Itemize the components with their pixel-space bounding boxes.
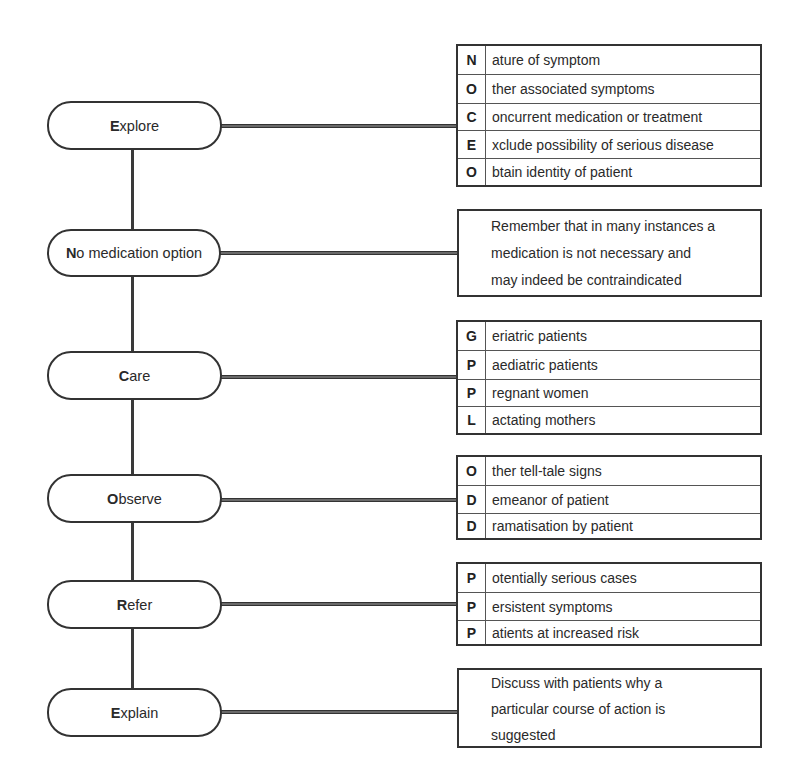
note-line: Remember that in many instances a — [491, 213, 752, 240]
table-row: P atients at increased risk — [458, 620, 760, 644]
acronym-letter: N — [458, 46, 486, 74]
step-label-rest: efer — [127, 597, 152, 613]
connector-observe — [221, 498, 457, 502]
step-initial: R — [117, 597, 127, 613]
acronym-letter: L — [458, 407, 486, 433]
acronym-text: eriatric patients — [486, 322, 760, 350]
table-row: D ramatisation by patient — [458, 513, 760, 538]
step-label-rest: bserve — [118, 491, 162, 507]
note-line: may indeed be contraindicated — [491, 267, 752, 294]
explain-note: Discuss with patients why a particular c… — [457, 668, 762, 748]
acronym-text: ersistent symptoms — [486, 593, 760, 620]
refer-details-table: P otentially serious cases P ersistent s… — [456, 562, 762, 646]
acronym-letter: D — [458, 486, 486, 513]
acronym-text: otentially serious cases — [486, 564, 760, 592]
table-row: N ature of symptom — [458, 46, 760, 74]
encore-flowchart: Explore N ature of symptom O ther associ… — [0, 0, 807, 770]
step-label-rest: o medication option — [76, 245, 202, 261]
no-medication-note: Remember that in many instances a medica… — [457, 209, 762, 297]
acronym-text: ther tell-tale signs — [486, 457, 760, 485]
acronym-text: actating mothers — [486, 407, 760, 433]
acronym-text: ther associated symptoms — [486, 75, 760, 103]
acronym-letter: P — [458, 593, 486, 620]
step-initial: C — [119, 368, 129, 384]
acronym-letter: P — [458, 621, 486, 644]
explore-details-table: N ature of symptom O ther associated sym… — [456, 44, 762, 187]
step-initial: E — [111, 705, 121, 721]
spine-line-3 — [131, 399, 134, 475]
acronym-letter: O — [458, 159, 486, 185]
step-observe: Observe — [47, 474, 222, 523]
table-row: E xclude possibility of serious disease — [458, 130, 760, 158]
acronym-letter: O — [458, 75, 486, 103]
step-label-rest: xplore — [120, 118, 160, 134]
acronym-text: emeanor of patient — [486, 486, 760, 513]
acronym-text: ature of symptom — [486, 46, 760, 74]
table-row: O ther associated symptoms — [458, 74, 760, 103]
step-explore: Explore — [47, 101, 222, 150]
acronym-letter: P — [458, 564, 486, 592]
step-initial: O — [107, 491, 118, 507]
acronym-letter: P — [458, 380, 486, 406]
table-row: L actating mothers — [458, 406, 760, 433]
table-row: P ersistent symptoms — [458, 592, 760, 620]
step-initial: E — [110, 118, 120, 134]
acronym-letter: O — [458, 457, 486, 485]
acronym-letter: D — [458, 514, 486, 538]
spine-line-5 — [131, 628, 134, 689]
table-row: P aediatric patients — [458, 350, 760, 379]
acronym-text: regnant women — [486, 380, 760, 406]
note-line: suggested — [491, 722, 752, 748]
step-no-medication: No medication option — [47, 229, 221, 277]
table-row: C oncurrent medication or treatment — [458, 103, 760, 130]
acronym-text: oncurrent medication or treatment — [486, 104, 760, 130]
connector-refer — [221, 602, 457, 606]
acronym-text: atients at increased risk — [486, 621, 760, 644]
observe-details-table: O ther tell-tale signs D emeanor of pati… — [456, 455, 762, 540]
care-details-table: G eriatric patients P aediatric patients… — [456, 320, 762, 435]
table-row: O btain identity of patient — [458, 158, 760, 185]
table-row: P otentially serious cases — [458, 564, 760, 592]
acronym-letter: E — [458, 131, 486, 158]
table-row: P regnant women — [458, 379, 760, 406]
acronym-text: ramatisation by patient — [486, 514, 760, 538]
table-row: D emeanor of patient — [458, 485, 760, 513]
connector-explore — [221, 124, 457, 128]
spine-line-2 — [131, 276, 134, 352]
note-line: Discuss with patients why a — [491, 670, 752, 696]
acronym-text: xclude possibility of serious disease — [486, 131, 760, 158]
acronym-text: btain identity of patient — [486, 159, 760, 185]
table-row: G eriatric patients — [458, 322, 760, 350]
spine-line-1 — [131, 149, 134, 230]
acronym-letter: C — [458, 104, 486, 130]
acronym-text: aediatric patients — [486, 351, 760, 379]
step-label-rest: are — [129, 368, 150, 384]
step-label-rest: xplain — [120, 705, 158, 721]
step-refer: Refer — [47, 580, 222, 629]
table-row: O ther tell-tale signs — [458, 457, 760, 485]
step-explain: Explain — [47, 688, 222, 737]
connector-explain — [220, 710, 458, 714]
note-line: particular course of action is — [491, 696, 752, 722]
spine-line-4 — [131, 522, 134, 581]
step-care: Care — [47, 351, 222, 400]
note-line: medication is not necessary and — [491, 240, 752, 267]
acronym-letter: G — [458, 322, 486, 350]
connector-no-medication — [220, 251, 458, 255]
acronym-letter: P — [458, 351, 486, 379]
step-initial: N — [66, 245, 76, 261]
connector-care — [220, 375, 457, 379]
